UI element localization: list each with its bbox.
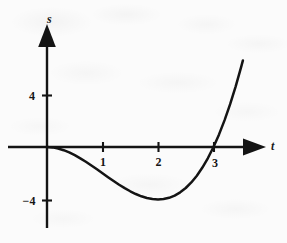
cubic-curve [47,60,243,199]
y-axis-arrowhead [38,24,56,47]
y-axis-label: s [47,13,52,25]
y-tick-label-minus-4: −4 [20,195,38,207]
y-tick-label-4: 4 [26,90,38,102]
x-axis-arrowhead [243,139,266,156]
graph-figure: s t 1 2 3 4 −4 [0,0,287,243]
coordinate-plot [0,0,287,243]
x-tick-label-2: 2 [153,156,165,168]
x-tick-label-3: 3 [209,157,221,169]
x-tick-label-1: 1 [97,156,109,168]
x-axis-label: t [271,140,274,152]
